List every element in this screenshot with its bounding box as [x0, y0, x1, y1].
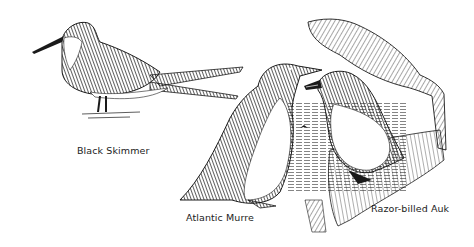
caption-razor-billed-auk: Razor-billed Auk	[371, 203, 449, 214]
black-skimmer-drawing	[32, 22, 243, 118]
caption-black-skimmer: Black Skimmer	[77, 145, 149, 156]
caption-atlantic-murre: Atlantic Murre	[186, 212, 254, 223]
